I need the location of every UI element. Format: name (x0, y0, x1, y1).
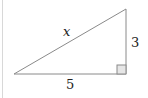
right-angle-marker (117, 65, 126, 74)
triangle-outline (14, 9, 126, 74)
vertical-leg-label: 3 (131, 36, 139, 49)
horizontal-leg-label: 5 (66, 78, 74, 91)
hypotenuse-label: x (63, 25, 70, 38)
